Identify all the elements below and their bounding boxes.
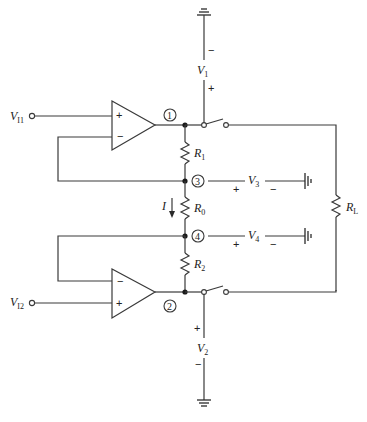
switch-1-contact-a [202,123,207,128]
v4-plus-sign: + [233,238,239,250]
opamp-2: − + [112,269,155,318]
v4-label: V4 [248,228,259,244]
r0-label: R0 [193,201,205,217]
opamp-2-plus: + [116,297,122,309]
opamp-1: + − [112,101,155,150]
vi2-label: VI2 [10,295,24,311]
v3-plus-sign: + [233,183,239,195]
ground-v1-icon [197,9,211,15]
opamp-1-plus: + [116,109,122,121]
opamp-1-minus: − [117,130,123,142]
v4-minus-sign: − [270,238,276,250]
node-2-label: 2 [167,301,172,312]
circuit-diagram: − + V1 + − VI1 1 R1 3 V3 + − R0 I [0,0,367,422]
v1-label: V1 [197,63,208,79]
r1-resistor-icon [181,142,189,164]
vi1-terminal[interactable] [29,113,34,118]
current-i-label: I [161,199,167,213]
v3-label: V3 [248,173,259,189]
switch-1-contact-b [224,123,229,128]
v1-minus-sign: − [208,44,214,56]
vi1-label: VI1 [10,109,24,125]
v1-plus-sign: + [208,82,214,94]
r2-resistor-icon [181,253,189,275]
v2-minus-sign: − [195,358,201,370]
r2-label: R2 [193,257,205,273]
switch-2-blade[interactable] [206,286,223,291]
switch-2-contact-a [202,290,207,295]
rl-label: RL [345,200,358,216]
top-rail-wire [228,125,336,195]
bottom-rail-wire [228,290,336,292]
ground-v3-icon [305,173,311,189]
node-1-label: 1 [167,110,172,121]
rl-resistor-icon [332,195,340,217]
current-arrow-icon [169,198,175,218]
r0-resistor-icon [181,197,189,219]
opamp-1-feedback-wire [58,137,185,181]
opamp-2-minus: − [117,275,123,287]
node-4-label: 4 [195,231,200,242]
v2-label: V2 [197,341,208,357]
vi2-terminal[interactable] [29,300,34,305]
v2-plus-sign: + [194,322,200,334]
r1-label: R1 [193,146,205,162]
node-3-label: 3 [195,176,200,187]
ground-v2-icon [197,400,211,406]
switch-1-blade[interactable] [206,119,223,124]
switch-2-contact-b [224,290,229,295]
ground-v4-icon [305,228,311,244]
v3-minus-sign: − [270,183,276,195]
